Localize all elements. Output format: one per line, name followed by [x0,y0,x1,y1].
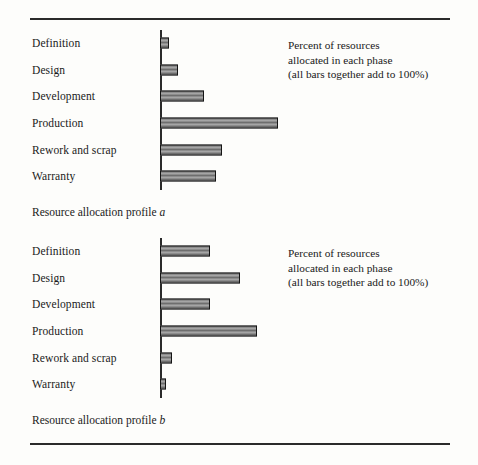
category-label: Warranty [32,378,75,391]
bar-row: Rework and scrap [0,344,478,371]
bottom-rule [30,443,450,445]
caption-a-text: Resource allocation profile [32,206,159,218]
category-label: Definition [32,37,80,50]
bar-container [160,91,204,102]
bar-container [160,246,210,257]
caption-b-text: Resource allocation profile [32,414,159,426]
bar-row: Warranty [0,371,478,398]
bar-container [160,144,222,155]
bar-row: Rework and scrap [0,136,478,163]
caption-a-italic: a [159,206,165,218]
bar-container [160,118,278,129]
bar-container [160,171,216,182]
bar-container [160,299,210,310]
annotation-line-1: Percent of resources [288,38,428,53]
bar-container [160,379,166,390]
bar-rework-and-scrap-b [160,352,172,363]
annotation-a: Percent of resources allocated in each p… [288,38,428,82]
bar-development-a [160,91,204,102]
caption-b-italic: b [159,414,165,426]
annotation-b: Percent of resources allocated in each p… [288,246,428,290]
annotation-line-3: (all bars together add to 100%) [288,67,428,82]
category-label: Rework and scrap [32,351,117,364]
bar-container [160,352,172,363]
bar-warranty-b [160,379,166,390]
annotation-line-1: Percent of resources [288,246,428,261]
caption-profile-a: Resource allocation profile a [32,206,165,218]
annotation-line-2: allocated in each phase [288,261,428,276]
bar-development-b [160,299,210,310]
bar-production-a [160,118,278,129]
category-label: Warranty [32,170,75,183]
bar-container [160,38,169,49]
category-label: Design [32,63,65,76]
category-label: Production [32,325,83,338]
bar-container [160,326,257,337]
bar-design-a [160,64,178,75]
category-label: Rework and scrap [32,143,117,156]
bar-warranty-a [160,171,216,182]
category-label: Development [32,90,95,103]
bar-definition-a [160,38,169,49]
bar-row: Development [0,291,478,318]
category-label: Design [32,271,65,284]
bar-row: Production [0,318,478,345]
bar-container [160,64,178,75]
bar-design-b [160,272,240,283]
annotation-line-3: (all bars together add to 100%) [288,275,428,290]
category-label: Development [32,298,95,311]
bar-rework-and-scrap-a [160,144,222,155]
bar-container [160,272,240,283]
figure-page: Definition Design Development [0,0,478,465]
bar-definition-b [160,246,210,257]
bar-row: Production [0,110,478,137]
bar-row: Development [0,83,478,110]
caption-profile-b: Resource allocation profile b [32,414,165,426]
annotation-line-2: allocated in each phase [288,53,428,68]
bar-production-b [160,326,257,337]
top-rule [30,18,450,20]
category-label: Production [32,117,83,130]
bar-row: Warranty [0,163,478,190]
category-label: Definition [32,245,80,258]
